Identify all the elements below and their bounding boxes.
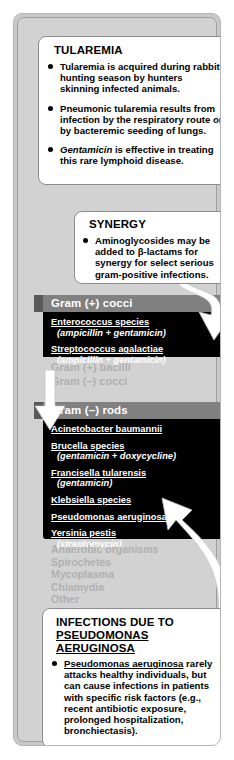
- pseudomonas-bullet-list: Pseudomonas aeruginosa rarely attacks he…: [52, 658, 221, 746]
- synergy-title: SYNERGY: [89, 218, 221, 231]
- organism-name: Enterococcus species: [51, 317, 149, 327]
- disabled-category-row: Anaerobic organisms: [43, 543, 221, 556]
- pseudomonas-info-box: INFECTIONS DUE TO PSEUDOMONAS AERUGINOSA…: [42, 608, 221, 746]
- pseudomonas-title-line1: INFECTIONS DUE TO: [56, 616, 174, 628]
- organism-name: Klebsiella species: [51, 495, 131, 505]
- tularemia-info-box: TULAREMIA Tularemia is acquired during r…: [38, 36, 221, 185]
- synergy-info-box: SYNERGY Aminoglycosides may be added to …: [74, 211, 221, 284]
- disabled-category-row: Mycoplasma: [43, 568, 221, 581]
- organism-name: Yersinia pestis: [51, 528, 116, 538]
- organism-name: Pseudomonas aeruginosa: [64, 658, 183, 669]
- disabled-category-list: Anaerobic organismsSpirochetesMycoplasma…: [43, 543, 221, 606]
- section-header-gram-positive-bacilli-disabled: Gram (+) bacilli: [43, 361, 221, 374]
- bullet-item: Tularemia is acquired during rabbit-hunt…: [48, 61, 221, 95]
- organism-name: Acinetobacter baumannii: [51, 424, 162, 434]
- organism-drug-regimen: (gentamicin + doxycycline): [51, 451, 221, 462]
- bullet-item: Gentamicin is effective in treating this…: [48, 144, 221, 166]
- organism-name: Pseudomonas aeruginosa: [51, 512, 167, 522]
- bullet-item: Pseudomonas aeruginosa rarely attacks he…: [52, 658, 221, 736]
- section-header-gram-negative-rods[interactable]: Gram (–) rods: [43, 402, 221, 419]
- organism-drug-regimen: (gentamicin): [51, 478, 221, 489]
- disabled-category-row: Spirochetes: [43, 556, 221, 569]
- disabled-category-row: Chlamydia: [43, 581, 221, 594]
- pseudomonas-title: INFECTIONS DUE TO PSEUDOMONAS AERUGINOSA: [56, 616, 221, 655]
- organism-drug-regimen: (ampicillin + gentamicin): [51, 328, 221, 339]
- drug-name: Gentamicin: [60, 144, 112, 155]
- tularemia-title: TULAREMIA: [54, 44, 221, 57]
- text-segment: Aminoglycosides may be added to β-lactam…: [95, 235, 214, 280]
- text-segment: Tularemia is acquired during rabbit-hunt…: [60, 61, 221, 94]
- card-inner-frame: TULAREMIA Tularemia is acquired during r…: [17, 17, 217, 742]
- section-header-gram-negative-cocci-disabled: Gram (–) cocci: [43, 375, 221, 388]
- organism-name: Streptococcus agalactiae: [51, 344, 163, 354]
- organism-entry[interactable]: Enterococcus species(ampicillin + gentam…: [51, 317, 221, 338]
- organism-entry[interactable]: Acinetobacter baumannii: [51, 424, 221, 435]
- organism-entry[interactable]: Pseudomonas aeruginosa: [51, 512, 221, 523]
- organism-name: Francisella tularensis: [51, 468, 146, 478]
- text-segment: Pneumonic tularemia results from infecti…: [60, 103, 221, 136]
- reference-card: TULAREMIA Tularemia is acquired during r…: [13, 13, 221, 746]
- text-segment: rarely attacks healthy individuals, but …: [64, 658, 212, 736]
- bullet-item: Aminoglycosides may be added to β-lactam…: [83, 235, 221, 280]
- organism-entry[interactable]: Brucella species(gentamicin + doxycyclin…: [51, 441, 221, 462]
- organism-panel-gram-positive-cocci: Enterococcus species(ampicillin + gentam…: [43, 312, 221, 357]
- drug-name: tobramycin: [154, 744, 206, 746]
- text-segment: Treatment includes: [64, 744, 154, 746]
- organism-entry[interactable]: Klebsiella species: [51, 495, 221, 506]
- tularemia-bullet-list: Tularemia is acquired during rabbit-hunt…: [48, 61, 221, 167]
- organism-name: Brucella species: [51, 441, 124, 451]
- disabled-category-row: Other: [43, 593, 221, 606]
- bullet-item: Treatment includes tobramycin alone (e.g…: [52, 744, 221, 746]
- organism-panel-gram-negative-rods: Acinetobacter baumanniiBrucella species(…: [43, 419, 221, 539]
- organism-entry[interactable]: Francisella tularensis(gentamicin): [51, 468, 221, 489]
- pseudomonas-title-line2: PSEUDOMONAS AERUGINOSA: [56, 629, 148, 654]
- section-header-gram-positive-cocci[interactable]: Gram (+) cocci: [43, 295, 221, 312]
- synergy-bullet-list: Aminoglycosides may be added to β-lactam…: [83, 235, 221, 280]
- bullet-item: Pneumonic tularemia results from infecti…: [48, 103, 221, 137]
